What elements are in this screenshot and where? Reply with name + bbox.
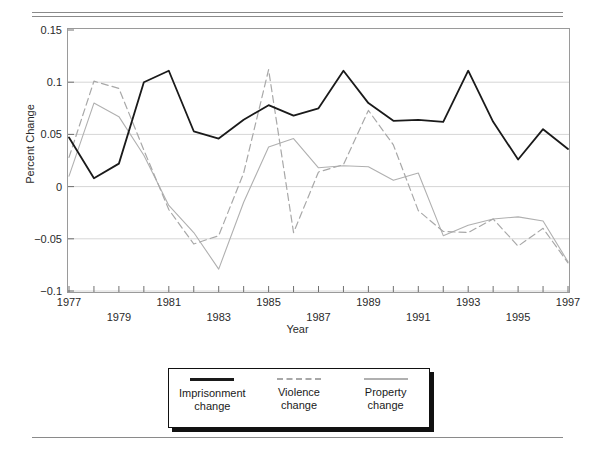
x-tick-label: 1983 [206,311,230,323]
legend-label-line1: Violence [256,386,343,399]
legend-label-line2: change [256,399,343,412]
x-tick-label: 1979 [107,311,131,323]
legend-label-line2: change [342,399,429,412]
y-axis-title: Percent Change [24,84,36,204]
chart-canvas [68,29,569,292]
plot-area: 0.150.10.050−0.05−0.1 197719811985198919… [67,28,570,293]
header-rule-lower [32,16,563,17]
series-line [69,70,568,263]
legend-item: Propertychange [342,378,429,412]
x-tick-label: 1981 [157,296,181,308]
footer-rule [32,437,563,438]
legend-line-swatch [364,378,408,380]
figure-page: Percent Change Year 0.150.10.050−0.05−0.… [0,0,595,450]
x-tick-label: 1987 [306,311,330,323]
x-tick-label: 1991 [406,311,430,323]
series-line [69,71,568,179]
x-axis-title: Year [0,323,595,335]
legend-item: Imprisonmentchange [169,378,256,413]
x-tick-label: 1995 [506,311,530,323]
x-tick-label: 1993 [456,296,480,308]
y-tick-label: 0.15 [41,24,62,36]
x-tick-label: 1997 [556,296,580,308]
y-tick-label: 0.1 [47,76,62,88]
y-tick-label: 0.05 [41,128,62,140]
legend-label-line1: Imprisonment [169,387,256,400]
legend-line-swatch [190,378,234,381]
legend-line-swatch [277,378,321,380]
legend-items: ImprisonmentchangeViolencechangeProperty… [169,369,429,427]
legend-label-line1: Property [342,386,429,399]
x-tick-label: 1977 [57,296,81,308]
line-chart: Percent Change Year 0.150.10.050−0.05−0.… [0,20,595,350]
x-tick-label: 1985 [256,296,280,308]
series-line [69,103,568,269]
y-tick-label: −0.05 [34,233,62,245]
header-rule-upper [32,12,563,13]
legend-item: Violencechange [256,378,343,412]
legend-label-line2: change [169,400,256,413]
chart-legend: ImprisonmentchangeViolencechangeProperty… [168,368,430,428]
y-tick-label: 0 [56,181,62,193]
x-tick-label: 1989 [356,296,380,308]
